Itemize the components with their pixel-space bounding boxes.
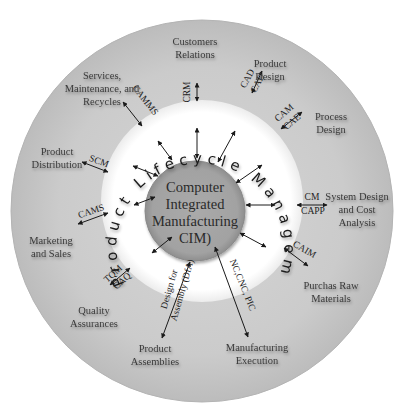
svg-text:Product: Product <box>254 58 287 69</box>
svg-text:System Design: System Design <box>325 191 389 202</box>
svg-text:Maintenance, and: Maintenance, and <box>65 83 140 94</box>
plm-cim-diagram: Product Lifecycle Management (PLM) Compu… <box>0 0 406 416</box>
svg-text:Marketing: Marketing <box>29 235 73 246</box>
svg-text:Relations: Relations <box>175 49 215 60</box>
svg-text:Distribution: Distribution <box>32 159 84 170</box>
svg-text:Product: Product <box>139 343 172 354</box>
svg-text:Customers: Customers <box>173 36 218 47</box>
svg-text:Quality: Quality <box>78 305 110 316</box>
abbr-crm: CRM <box>182 81 192 103</box>
svg-text:Purchas Raw: Purchas Raw <box>303 280 359 291</box>
svg-text:and Sales: and Sales <box>31 248 71 259</box>
svg-text:Process: Process <box>315 111 347 122</box>
svg-text:Materials: Materials <box>311 293 351 304</box>
svg-text:Assemblies: Assemblies <box>131 356 179 367</box>
svg-text:Manufacturing: Manufacturing <box>226 342 289 353</box>
svg-text:Design: Design <box>255 71 285 82</box>
center-line-1: Computer <box>166 179 224 195</box>
svg-text:Execution: Execution <box>236 355 279 366</box>
abbr-capp: CAPP <box>301 206 325 216</box>
abbr-cm: CM <box>305 192 320 202</box>
center-line-4: CIM) <box>179 230 211 247</box>
svg-text:and Cost: and Cost <box>338 204 375 215</box>
svg-text:Recycles: Recycles <box>83 96 121 107</box>
svg-text:Services,: Services, <box>83 70 121 81</box>
center-line-2: Integrated <box>166 196 226 212</box>
svg-text:Design: Design <box>316 124 346 135</box>
svg-text:Analysis: Analysis <box>339 217 376 228</box>
svg-text:Product: Product <box>41 146 74 157</box>
center-line-3: Manufacturing <box>152 213 238 229</box>
svg-text:Assurances: Assurances <box>70 318 118 329</box>
